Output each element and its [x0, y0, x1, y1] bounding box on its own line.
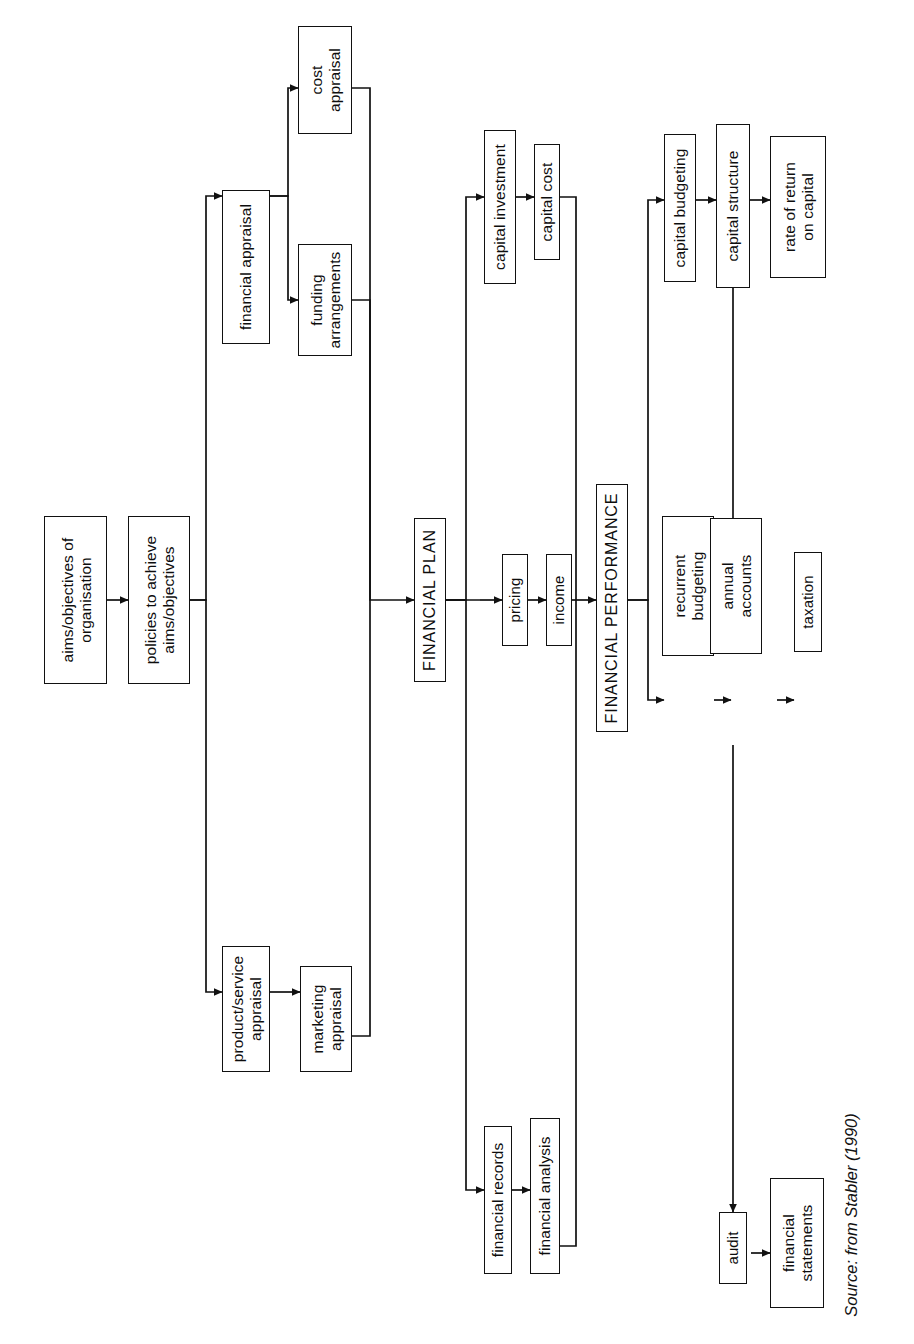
node-taxation[interactable]: taxation: [794, 552, 822, 652]
node-label: pricing: [507, 578, 524, 623]
edge-policies-to-financial-appraisal: [190, 196, 222, 600]
node-financial-performance[interactable]: FINANCIAL PERFORMANCE: [596, 484, 628, 732]
node-label: FINANCIAL PERFORMANCE: [603, 493, 621, 724]
edge-fa-to-cost-appraisal: [270, 88, 298, 196]
source-note-text: Source: from Stabler (1990): [842, 1113, 861, 1317]
node-aims-objectives[interactable]: aims/objectives of organisation: [44, 516, 107, 684]
edge-fa-to-funding-arrangements: [270, 196, 298, 300]
node-policies[interactable]: policies to achieve aims/objectives: [128, 516, 190, 684]
node-label: financial records: [489, 1143, 507, 1258]
edge-policies-to-product-service: [190, 600, 222, 992]
node-financial-analysis[interactable]: financial analysis: [530, 1118, 560, 1274]
node-label: capital cost: [538, 163, 556, 242]
node-label: cost appraisal: [308, 48, 343, 112]
node-income[interactable]: income: [546, 554, 572, 646]
node-annual-accounts[interactable]: annual accounts: [710, 518, 762, 654]
node-financial-plan[interactable]: FINANCIAL PLAN: [414, 518, 446, 682]
node-label: annual accounts: [719, 555, 754, 618]
node-financial-appraisal[interactable]: financial appraisal: [222, 190, 270, 344]
node-label: funding arrangements: [308, 252, 343, 349]
flowchart-canvas: aims/objectives of organisation policies…: [0, 0, 914, 1344]
node-label: capital budgeting: [671, 149, 689, 268]
node-label: financial analysis: [536, 1137, 554, 1256]
node-pricing[interactable]: pricing: [502, 554, 528, 646]
node-label: audit: [725, 1231, 742, 1264]
edge-analysis-to-merge: [560, 600, 576, 1246]
node-label: policies to achieve aims/objectives: [142, 536, 177, 665]
node-label: financial appraisal: [237, 204, 255, 330]
edge-funding-to-spine: [352, 300, 370, 600]
node-funding-arrangements[interactable]: funding arrangements: [298, 244, 352, 356]
source-note: Source: from Stabler (1990): [836, 1100, 866, 1330]
edge-plan-to-capital-investment: [446, 197, 484, 600]
edge-fp-to-recurrent-budgeting: [628, 600, 664, 700]
node-cost-appraisal[interactable]: cost appraisal: [298, 26, 352, 134]
node-label: marketing appraisal: [309, 985, 344, 1054]
node-marketing-appraisal[interactable]: marketing appraisal: [300, 966, 352, 1072]
node-capital-cost[interactable]: capital cost: [534, 144, 560, 260]
node-capital-budgeting[interactable]: capital budgeting: [664, 134, 696, 282]
node-rate-of-return[interactable]: rate of return on capital: [770, 136, 826, 278]
node-label: capital structure: [724, 150, 742, 261]
node-label: taxation: [800, 575, 817, 628]
node-label: income: [551, 576, 568, 625]
edge-marketing-to-spine: [352, 600, 370, 1036]
node-capital-structure[interactable]: capital structure: [716, 124, 750, 288]
edge-fp-to-capital-budgeting: [628, 200, 664, 600]
node-label: aims/objectives of organisation: [58, 538, 93, 663]
node-financial-statements[interactable]: financial statements: [770, 1178, 824, 1308]
edge-cost-appraisal-to-plan: [352, 88, 414, 600]
node-label: FINANCIAL PLAN: [421, 529, 439, 671]
node-label: capital investment: [491, 144, 509, 270]
node-recurrent-budgeting[interactable]: recurrent budgeting: [662, 516, 714, 656]
node-label: rate of return on capital: [781, 162, 816, 252]
node-product-service-appraisal[interactable]: product/service appraisal: [222, 946, 270, 1072]
edge-capcost-to-merge: [560, 197, 576, 600]
edge-plan-to-financial-records: [446, 600, 484, 1190]
node-financial-records[interactable]: financial records: [484, 1126, 512, 1274]
node-audit[interactable]: audit: [719, 1212, 747, 1284]
node-capital-investment[interactable]: capital investment: [484, 130, 516, 284]
node-label: recurrent budgeting: [671, 552, 706, 621]
node-label: product/service appraisal: [229, 956, 264, 1063]
node-label: financial statements: [780, 1205, 815, 1282]
